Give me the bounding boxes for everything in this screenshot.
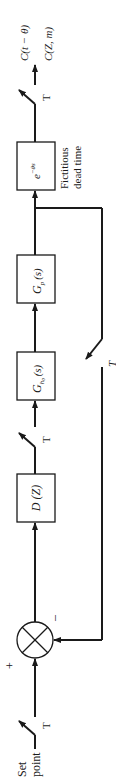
setpoint-label: Set xyxy=(15,761,29,777)
plant-block: Gp(s) xyxy=(17,255,55,303)
output-label-1: C(t − θ) xyxy=(18,25,31,61)
plant-label: G xyxy=(30,285,44,294)
input-sampler-label: T xyxy=(40,722,52,729)
sum-plus-sign: + xyxy=(3,662,17,669)
controller-sampler-label: T xyxy=(40,436,52,443)
hold-block: Gh0(s) xyxy=(17,352,55,400)
deadtime-block: e−θs xyxy=(17,142,55,190)
block-diagram: Set point T + – D (Z) T xyxy=(0,0,116,779)
controller-label: D (Z) xyxy=(29,485,43,512)
summing-junction xyxy=(17,622,53,658)
output-sampler-label: T xyxy=(40,94,52,101)
feedback-sampler-label: T xyxy=(106,360,116,367)
output-label-2: C(Z, m) xyxy=(42,26,55,61)
controller-block: D (Z) xyxy=(17,474,55,522)
deadtime-caption: Fictitious xyxy=(58,147,70,189)
sum-minus-sign: – xyxy=(47,614,61,622)
hold-label: G xyxy=(30,384,44,393)
deadtime-caption-2: dead time xyxy=(71,146,83,189)
setpoint-label-2: point xyxy=(29,752,43,777)
input-sampler: T xyxy=(19,659,52,749)
